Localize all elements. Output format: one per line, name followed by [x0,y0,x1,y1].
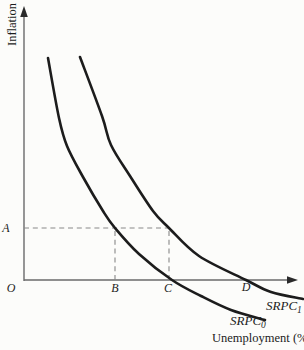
point-label-A: A [1,221,10,235]
srpc0-curve-label: SRPC0 [230,313,266,330]
x-axis-arrowhead-icon [287,276,298,284]
srpc1-curve [80,57,303,299]
y-axis-arrowhead-icon [20,6,28,17]
figure-canvas: OABCD Inflation Unemployment (%) SRPC0 S… [0,0,304,350]
srpc0-curve [48,58,265,320]
point-label-B: B [111,281,119,295]
point-label-C: C [164,281,173,295]
point-label-O: O [7,281,16,295]
dashed-guides [24,228,169,280]
x-axis-label: Unemployment (%) [212,331,304,345]
point-label-D: D [241,280,251,294]
point-labels: OABCD [1,221,250,295]
srpc1-curve-label: SRPC1 [266,298,302,315]
phillips-curve-figure: OABCD Inflation Unemployment (%) SRPC0 S… [0,0,304,350]
y-axis-label: Inflation [5,2,19,46]
